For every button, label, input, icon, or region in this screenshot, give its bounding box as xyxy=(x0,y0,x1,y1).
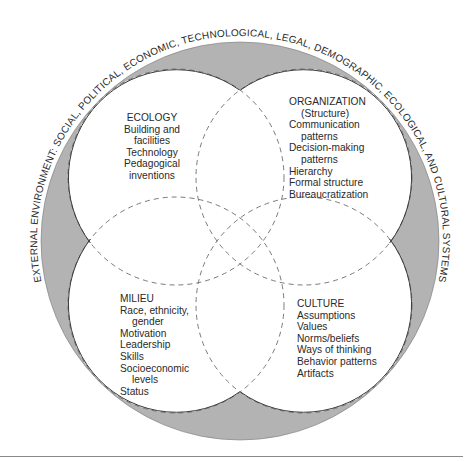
culture-item: Values xyxy=(297,321,397,333)
ecology-quadrant: ECOLOGY Building and facilities Technolo… xyxy=(112,112,192,182)
ecology-item: inventions xyxy=(112,170,192,182)
milieu-item: Skills xyxy=(120,351,210,363)
organization-item: Bureaucratization xyxy=(289,189,389,201)
ecology-title: ECOLOGY xyxy=(112,112,192,124)
milieu-item: gender xyxy=(120,316,210,328)
milieu-item: Motivation xyxy=(120,328,210,340)
milieu-title: MILIEU xyxy=(120,293,210,305)
organization-item: Decision-making xyxy=(289,142,389,154)
ecology-item: Building and xyxy=(112,124,192,136)
culture-item: Behavior patterns xyxy=(297,356,397,368)
culture-item: Norms/beliefs xyxy=(297,333,397,345)
organization-quadrant: ORGANIZATION (Structure) Communication p… xyxy=(289,96,389,200)
milieu-item: Socioeconomic xyxy=(120,363,210,375)
organization-item: Communication xyxy=(289,119,389,131)
ecology-item: Pedagogical xyxy=(112,158,192,170)
milieu-item: Leadership xyxy=(120,339,210,351)
ecology-item: facilities xyxy=(112,135,192,147)
bottom-divider xyxy=(0,456,463,457)
milieu-item: Status xyxy=(120,386,210,398)
organizational-climate-diagram: EXTERNAL ENVIRONMENT: SOCIAL, POLITICAL,… xyxy=(0,0,470,461)
milieu-item: levels xyxy=(120,374,210,386)
culture-item: Artifacts xyxy=(297,368,397,380)
organization-item: Hierarchy xyxy=(289,166,389,178)
milieu-quadrant: MILIEU Race, ethnicity, gender Motivatio… xyxy=(120,293,210,397)
culture-item: Assumptions xyxy=(297,310,397,322)
organization-item: Formal structure xyxy=(289,177,389,189)
ecology-item: Technology xyxy=(112,147,192,159)
culture-item: Ways of thinking xyxy=(297,344,397,356)
organization-title: ORGANIZATION xyxy=(289,96,389,108)
culture-quadrant: CULTURE Assumptions Values Norms/beliefs… xyxy=(297,298,397,379)
culture-title: CULTURE xyxy=(297,298,397,310)
milieu-item: Race, ethnicity, xyxy=(120,305,210,317)
organization-item: patterns xyxy=(289,154,389,166)
organization-item: patterns xyxy=(289,131,389,143)
organization-item: (Structure) xyxy=(289,108,389,120)
